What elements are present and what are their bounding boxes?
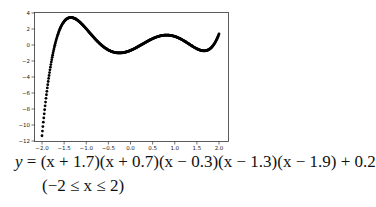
y-tick-label: −8 (22, 106, 31, 112)
equation-line-1: y = (x + 1.7)(x + 0.7)(x − 0.3)(x − 1.3)… (15, 152, 376, 172)
equation-domain: (−2 ≤ x ≤ 2) (42, 176, 124, 196)
function-plot: 420−2−4−6−8−10−12 −2.0−1.5−1.0−0.50.00.5… (0, 0, 368, 150)
x-tick-label: −1.0 (80, 145, 94, 150)
equation-rhs: = (x + 1.7)(x + 0.7)(x − 0.3)(x − 1.3)(x… (27, 152, 376, 171)
x-tick-label: −1.5 (57, 145, 71, 150)
x-tick-label: 1.5 (193, 145, 202, 150)
y-tick-label: −6 (22, 90, 31, 96)
y-tick-label: −12 (18, 138, 30, 144)
plot-frame (35, 13, 229, 142)
y-axis-ticks: 420−2−4−6−8−10−12 (18, 10, 34, 144)
x-tick-label: −0.5 (102, 145, 116, 150)
x-tick-label: 1.0 (170, 145, 179, 150)
x-tick-label: −2.0 (35, 145, 49, 150)
x-axis-ticks: −2.0−1.5−1.0−0.50.00.51.01.52.0 (35, 142, 224, 151)
equation-lhs: y (15, 152, 23, 171)
y-tick-label: −10 (18, 122, 30, 128)
x-tick-label: 0.5 (148, 145, 157, 150)
x-tick-label: 2.0 (215, 145, 224, 150)
y-tick-label: 4 (27, 10, 31, 16)
y-tick-label: 2 (27, 26, 31, 32)
y-tick-label: −4 (22, 74, 31, 80)
y-tick-label: −2 (22, 58, 30, 64)
y-tick-label: 0 (27, 42, 31, 48)
x-tick-label: 0.0 (126, 145, 135, 150)
